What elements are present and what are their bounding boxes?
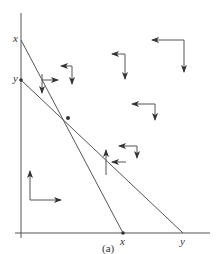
y-axis-point-y bbox=[19, 78, 23, 82]
y-axis-label-x: x bbox=[13, 33, 18, 44]
x-axis-label-x: x bbox=[120, 236, 125, 247]
y-axis-label-y: y bbox=[13, 73, 18, 84]
intersection-point bbox=[66, 116, 70, 120]
shallow-line bbox=[21, 80, 183, 233]
arrow-pair-top-right-large bbox=[152, 40, 184, 72]
arrow-pair-upper-mid bbox=[61, 66, 72, 84]
x-axis-label-y: y bbox=[180, 236, 185, 247]
arrow-pair-right-mid bbox=[132, 104, 155, 120]
arrow-pair-origin bbox=[30, 171, 61, 200]
arrow-pair-top-right-small bbox=[112, 54, 125, 79]
arrow-pair-lower-shallow bbox=[119, 146, 137, 158]
figure-caption: (a) bbox=[102, 243, 114, 254]
